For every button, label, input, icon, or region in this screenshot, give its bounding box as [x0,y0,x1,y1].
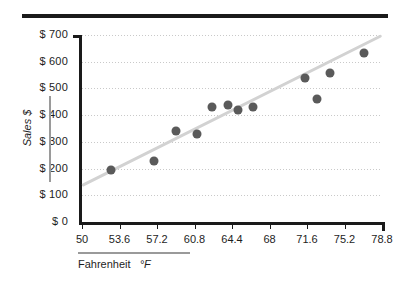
x-tick [307,222,308,229]
x-tick [120,222,121,229]
x-axis-title: Fahrenheit °F [78,258,151,270]
y-axis-top-cap [73,35,82,38]
data-point [360,49,369,58]
x-tick-label: 53.6 [109,233,130,245]
data-point [248,102,257,111]
x-tick [82,222,83,229]
data-point [234,106,243,115]
y-tick-label: $ 600 [12,55,68,67]
y-tick-label: $ 700 [12,28,68,40]
trendline [81,34,382,187]
y-axis-title-label: Sales $ [21,91,33,165]
x-tick-label: 75.2 [334,233,355,245]
header-rule [22,14,388,18]
x-tick-label: 60.8 [184,233,205,245]
x-tick-label: 57.2 [146,233,167,245]
data-point [313,94,322,103]
gridline [82,142,382,143]
x-tick [270,222,271,229]
x-tick-label: 64.4 [221,233,242,245]
data-point [325,68,334,77]
x-tick [382,222,383,229]
data-point [208,102,217,111]
x-tick [195,222,196,229]
x-tick-label: 71.6 [296,233,317,245]
data-point [300,74,309,83]
gridline [82,62,382,63]
y-tick-label: $ 0 [12,215,68,227]
y-tick-label: $ 100 [12,188,68,200]
data-point [223,100,232,109]
x-tick [232,222,233,229]
data-point [192,129,201,138]
gridline [82,169,382,170]
x-tick [345,222,346,229]
data-point [149,157,158,166]
data-point [107,165,116,174]
x-axis-title-rule [78,252,190,254]
y-axis-title: Sales $ [16,122,90,144]
gridline [82,195,382,196]
gridline [82,88,382,89]
x-tick-label: 78.8 [371,233,392,245]
x-tick-label: 68 [263,233,275,245]
x-axis-unit-label: °F [140,258,151,270]
x-tick [157,222,158,229]
x-tick-label: 50 [76,233,88,245]
gridline [82,35,382,36]
gridline [82,115,382,116]
data-point [171,126,180,135]
x-axis-title-label: Fahrenheit [78,258,131,270]
chart-figure: $ 700$ 600$ 500$ 400$ 300$ 200$ 100$ 0 5… [0,0,408,282]
